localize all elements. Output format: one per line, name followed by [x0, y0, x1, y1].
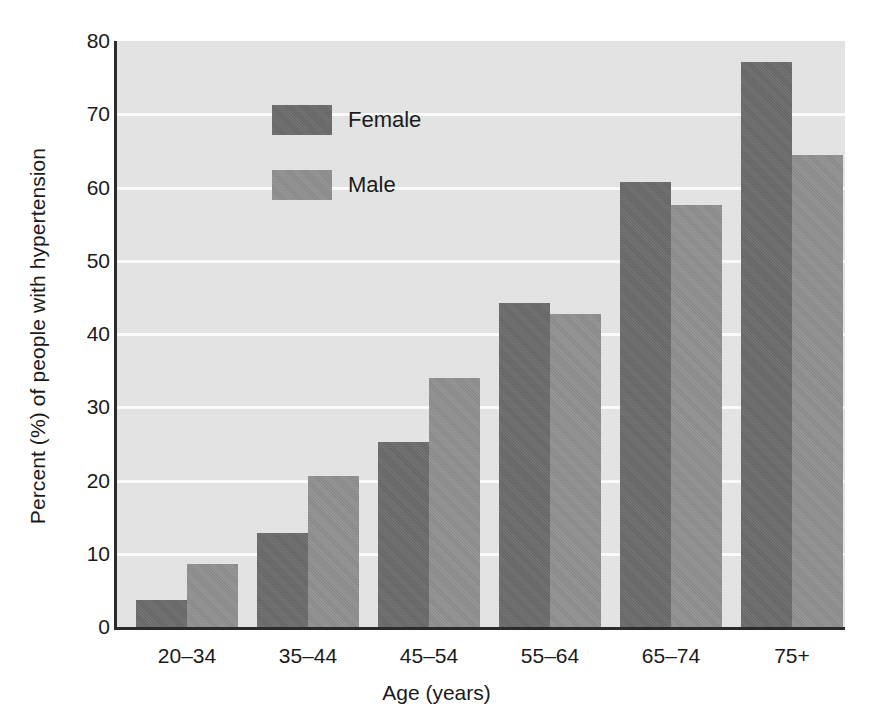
y-tick-label: 60 [87, 177, 110, 198]
gridline [117, 406, 845, 409]
legend-label-male: Male [348, 172, 396, 198]
bar-female [620, 182, 671, 627]
x-tick-label: 35–44 [248, 644, 368, 668]
legend-item-female: Female [272, 105, 421, 135]
y-tick-label: 30 [87, 396, 110, 417]
x-tick-label: 55–64 [490, 644, 610, 668]
legend-label-female: Female [348, 107, 421, 133]
gridline [117, 113, 845, 116]
x-tick-label: 65–74 [611, 644, 731, 668]
bar-female [257, 533, 308, 627]
bar-female [499, 303, 550, 627]
x-axis-line [114, 627, 845, 630]
x-tick-label: 75+ [732, 644, 852, 668]
plot-area: Female Male [117, 41, 845, 627]
legend-item-male: Male [272, 170, 396, 200]
y-tick-label: 50 [87, 250, 110, 271]
bar-male [550, 314, 601, 628]
legend-swatch-female-icon [272, 105, 332, 135]
bar-female [136, 600, 187, 627]
y-axis-line [114, 41, 117, 630]
gridline [117, 333, 845, 336]
y-tick-label: 10 [87, 543, 110, 564]
bar-male [429, 378, 480, 627]
y-tick-label: 20 [87, 470, 110, 491]
bar-male [308, 476, 359, 627]
gridline [117, 187, 845, 190]
y-tick-label: 70 [87, 103, 110, 124]
y-tick-label: 0 [98, 616, 110, 637]
bar-female [378, 442, 429, 627]
x-tick-label: 20–34 [127, 644, 247, 668]
bar-male [671, 205, 722, 627]
gridline [117, 480, 845, 483]
bar-female [741, 62, 792, 627]
gridline [117, 260, 845, 263]
x-tick-label: 45–54 [369, 644, 489, 668]
gridline [117, 553, 845, 556]
legend-swatch-male-icon [272, 170, 332, 200]
bar-chart-figure: Percent (%) of people with hypertension … [0, 0, 873, 719]
y-tick-label: 40 [87, 323, 110, 344]
bar-male [792, 155, 843, 627]
y-tick-label: 80 [87, 30, 110, 51]
x-axis-title: Age (years) [0, 681, 873, 705]
bar-male [187, 564, 238, 627]
